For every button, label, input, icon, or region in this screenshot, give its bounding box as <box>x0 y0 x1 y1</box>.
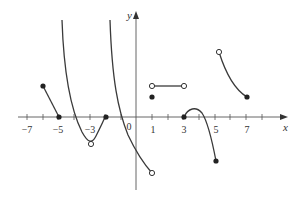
tick-label: 5 <box>214 124 219 135</box>
tick-label: 3 <box>182 124 187 135</box>
right-decreasing-curve <box>219 52 247 97</box>
axes <box>18 16 282 190</box>
tick-labels: −7 −5 −3 1 3 5 7 0 x y <box>22 9 288 135</box>
function-graph: −7 −5 −3 1 3 5 7 0 x y <box>0 0 302 203</box>
tick-label: 1 <box>151 124 156 135</box>
graph-canvas: −7 −5 −3 1 3 5 7 0 x y <box>0 0 302 203</box>
curves <box>43 20 247 173</box>
tick-label: −5 <box>53 124 64 135</box>
asymptote-curve-left <box>62 20 105 141</box>
y-axis-arrow-icon <box>133 11 139 19</box>
x-axis-label: x <box>282 121 288 133</box>
tick-label: −7 <box>22 124 33 135</box>
origin-label: 0 <box>127 121 132 132</box>
tick-label: 7 <box>245 124 250 135</box>
y-axis-label: y <box>126 9 132 21</box>
tick-label: −3 <box>85 124 96 135</box>
segment-left-line <box>43 86 59 117</box>
x-axis-arrow-icon <box>280 114 288 120</box>
asymptote-curve-middle <box>110 20 152 173</box>
